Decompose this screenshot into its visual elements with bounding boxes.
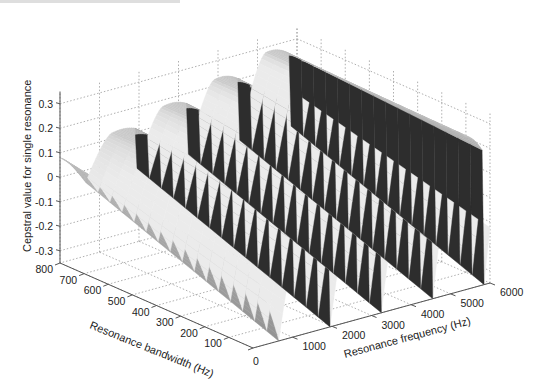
z-tick-label: 0 <box>47 171 53 183</box>
y-tick-label: 500 <box>108 295 126 307</box>
z-tick-label: 0.2 <box>38 122 53 134</box>
z-axis-label: Cepstral value for single resonance <box>21 80 33 252</box>
x-tick-label: 5000 <box>461 297 485 309</box>
x-tick-label: 6000 <box>500 286 524 298</box>
z-tick-label: -0.1 <box>35 196 53 208</box>
x-tick-label: 2000 <box>342 329 366 341</box>
y-tick-label: 400 <box>132 306 150 318</box>
y-tick-label: 300 <box>156 316 174 328</box>
z-tick-label: -0.3 <box>35 245 53 257</box>
x-tick-label: 1000 <box>303 340 327 352</box>
surface-plot: -0.3-0.2-0.100.10.20.3 01002003004005006… <box>0 0 534 389</box>
y-tick-label: 0 <box>253 355 259 367</box>
z-tick-label: 0.3 <box>38 98 53 110</box>
y-tick-label: 200 <box>180 327 198 339</box>
y-tick-label: 700 <box>60 274 78 286</box>
y-tick-label: 100 <box>204 337 222 349</box>
z-axis-ticks: -0.3-0.2-0.100.10.20.3 <box>35 98 60 257</box>
y-tick-label: 600 <box>84 284 102 296</box>
x-tick-label: 4000 <box>421 308 445 320</box>
y-tick-label: 800 <box>35 263 53 275</box>
x-tick-label: 3000 <box>382 319 406 331</box>
z-tick-label: -0.2 <box>35 220 53 232</box>
z-tick-label: 0.1 <box>38 147 53 159</box>
